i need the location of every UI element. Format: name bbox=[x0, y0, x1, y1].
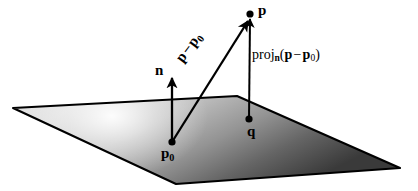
projection-label-subscript: n bbox=[275, 53, 280, 63]
projection-vector-arrow bbox=[249, 19, 250, 119]
point-p0-label: p0 bbox=[161, 146, 174, 161]
projection-label: projn(p − p0) bbox=[252, 48, 320, 62]
projection-label-name: proj bbox=[252, 47, 275, 62]
point-p-label-text: p bbox=[258, 2, 266, 18]
point-q-label-text: q bbox=[247, 123, 255, 139]
projection-label-close-paren: ) bbox=[315, 47, 320, 62]
point-p-dot bbox=[246, 10, 253, 17]
projection-label-arg-tail-subscript: 0 bbox=[310, 53, 315, 63]
plane-highlight bbox=[16, 54, 208, 178]
point-q-dot bbox=[245, 115, 252, 122]
plane-shape bbox=[13, 54, 400, 184]
point-p-label: p bbox=[258, 3, 266, 18]
figure-canvas bbox=[0, 0, 418, 191]
vector-projection-figure: p q p0 n p − p0 projn(p − p0) bbox=[0, 0, 418, 191]
normal-vector-label-text: n bbox=[155, 62, 163, 78]
point-q-label: q bbox=[247, 124, 255, 139]
point-p0-label-subscript: 0 bbox=[169, 152, 174, 163]
normal-vector-label: n bbox=[155, 63, 163, 78]
point-p0-dot bbox=[168, 138, 175, 145]
